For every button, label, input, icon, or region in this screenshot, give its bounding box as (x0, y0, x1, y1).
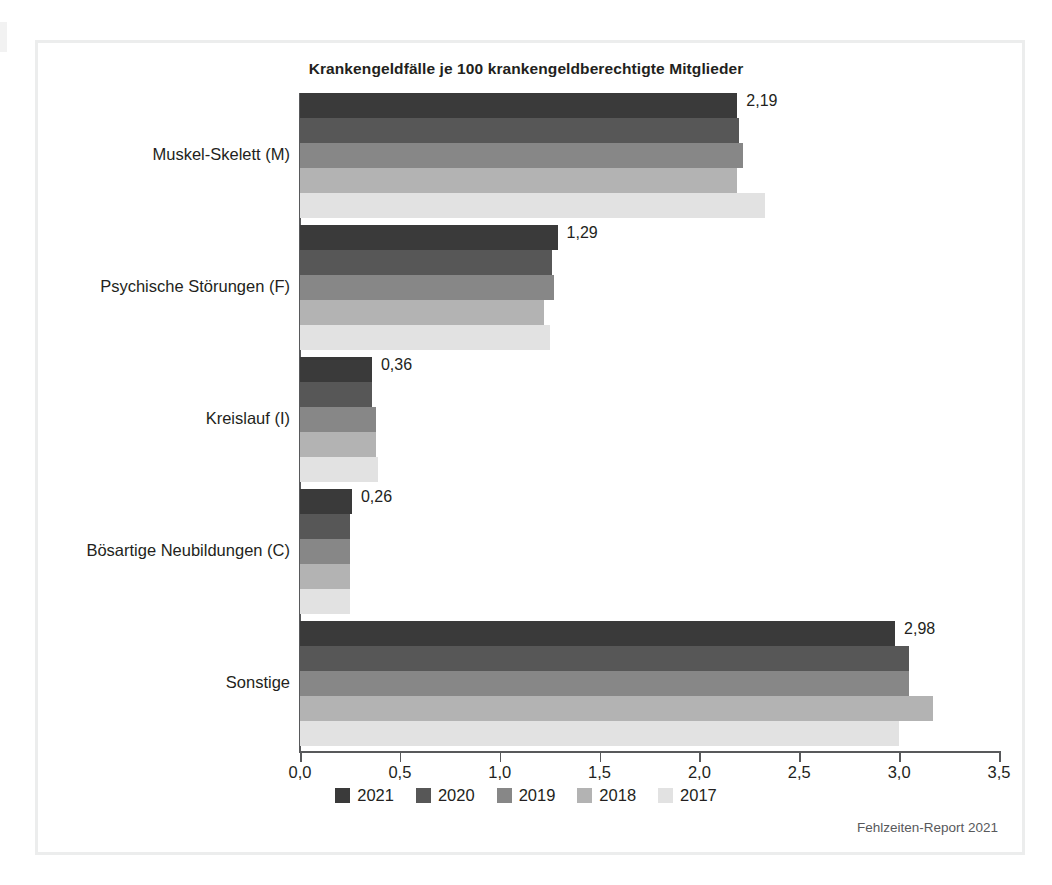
x-axis-tick-label: 1,5 (565, 763, 635, 782)
bar-row (300, 143, 1000, 168)
bar-2021 (300, 93, 737, 118)
bar-2020 (300, 118, 739, 143)
category-label: Psychische Störungen (F) (30, 277, 290, 296)
page-edge-artifact (0, 22, 7, 52)
x-axis-tick-label: 0,5 (365, 763, 435, 782)
legend-item-2017[interactable]: 2017 (658, 786, 717, 805)
bar-row (300, 696, 1000, 721)
bar-value-label: 2,19 (746, 92, 777, 110)
bar-2021 (300, 489, 352, 514)
x-axis-tick (799, 753, 801, 762)
legend-item-2018[interactable]: 2018 (577, 786, 636, 805)
bar-value-label: 1,29 (567, 224, 598, 242)
bar-2017 (300, 721, 899, 746)
bar-2018 (300, 564, 350, 589)
legend-swatch-icon (416, 788, 431, 803)
bar-row (300, 300, 1000, 325)
bar-2019 (300, 671, 909, 696)
x-axis-tick (500, 753, 502, 762)
x-axis-tick-label: 2,0 (664, 763, 734, 782)
bar-2018 (300, 696, 933, 721)
bar-row (300, 646, 1000, 671)
x-axis-tick (300, 753, 302, 762)
legend-label: 2019 (519, 786, 556, 805)
bar-row (300, 407, 1000, 432)
bar-2017 (300, 325, 550, 350)
bar-2019 (300, 143, 743, 168)
chart-legend: 20212020201920182017 (0, 786, 1052, 805)
category-label: Sonstige (30, 673, 290, 692)
chart-title: Krankengeldfälle je 100 krankengeldberec… (0, 60, 1052, 78)
x-axis-tick-label: 1,0 (465, 763, 535, 782)
category-label: Kreislauf (I) (30, 409, 290, 428)
legend-item-2020[interactable]: 2020 (416, 786, 475, 805)
bar-row: 0,26 (300, 489, 1000, 514)
x-axis-tick (899, 753, 901, 762)
bar-2020 (300, 514, 350, 539)
bar-row (300, 721, 1000, 746)
bar-2017 (300, 589, 350, 614)
x-axis-tick (999, 753, 1001, 762)
bar-row (300, 250, 1000, 275)
bar-value-label: 2,98 (904, 620, 935, 638)
bar-row (300, 193, 1000, 218)
x-axis-tick-label: 3,0 (864, 763, 934, 782)
bar-row (300, 671, 1000, 696)
legend-label: 2020 (438, 786, 475, 805)
x-axis-tick (699, 753, 701, 762)
bar-2021 (300, 621, 895, 646)
legend-swatch-icon (335, 788, 350, 803)
bar-row (300, 589, 1000, 614)
category-label: Bösartige Neubildungen (C) (30, 541, 290, 560)
bar-2020 (300, 646, 909, 671)
legend-label: 2018 (599, 786, 636, 805)
bar-2019 (300, 275, 554, 300)
bar-2018 (300, 432, 376, 457)
bar-row (300, 382, 1000, 407)
bar-value-label: 0,36 (381, 356, 412, 374)
bar-row: 0,36 (300, 357, 1000, 382)
bar-row (300, 514, 1000, 539)
bar-row: 2,98 (300, 621, 1000, 646)
legend-item-2021[interactable]: 2021 (335, 786, 394, 805)
bar-value-label: 0,26 (361, 488, 392, 506)
bar-row (300, 539, 1000, 564)
x-axis-line (299, 751, 1001, 753)
x-axis-tick-label: 3,5 (964, 763, 1034, 782)
legend-label: 2017 (680, 786, 717, 805)
x-axis-tick-label: 2,5 (764, 763, 834, 782)
x-axis-tick-label: 0,0 (265, 763, 335, 782)
legend-label: 2021 (357, 786, 394, 805)
bar-row: 2,19 (300, 93, 1000, 118)
bar-row: 1,29 (300, 225, 1000, 250)
bar-row (300, 564, 1000, 589)
x-axis-tick (600, 753, 602, 762)
bar-row (300, 457, 1000, 482)
bar-2020 (300, 250, 552, 275)
bar-2018 (300, 168, 737, 193)
legend-swatch-icon (658, 788, 673, 803)
source-note: Fehlzeiten-Report 2021 (857, 820, 998, 835)
bar-2019 (300, 539, 350, 564)
bar-row (300, 118, 1000, 143)
bar-row (300, 168, 1000, 193)
bar-2017 (300, 193, 765, 218)
bar-row (300, 432, 1000, 457)
bar-2021 (300, 225, 558, 250)
category-label: Muskel-Skelett (M) (30, 145, 290, 164)
bar-2021 (300, 357, 372, 382)
bar-row (300, 275, 1000, 300)
bar-2020 (300, 382, 372, 407)
bar-2017 (300, 457, 378, 482)
bar-2018 (300, 300, 544, 325)
legend-swatch-icon (497, 788, 512, 803)
x-axis-tick (400, 753, 402, 762)
bar-row (300, 325, 1000, 350)
bar-2019 (300, 407, 376, 432)
legend-swatch-icon (577, 788, 592, 803)
legend-item-2019[interactable]: 2019 (497, 786, 556, 805)
